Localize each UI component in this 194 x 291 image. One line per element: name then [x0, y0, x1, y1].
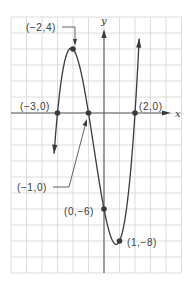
label-0-neg6: (0,−6)	[64, 206, 94, 217]
data-point	[132, 110, 138, 116]
y-axis-label: y	[100, 15, 107, 26]
label-1-neg8: (1,−8)	[127, 237, 157, 248]
label-2-0: (2,0)	[139, 101, 163, 112]
data-point	[117, 238, 123, 244]
point-labels: (−3,0) (−2,4) (−1,0) (0,−6) (1,−8) (2,0)	[17, 22, 163, 248]
data-point	[101, 206, 107, 212]
label-neg3-0: (−3,0)	[20, 101, 50, 112]
data-point	[70, 46, 76, 52]
axes: x y	[11, 15, 181, 273]
data-point	[55, 110, 61, 116]
cubic-function-graph: x y (−3,0) (−2,4) (−1,0) (0,−6) (1,−8) (…	[0, 0, 194, 291]
label-neg2-4: (−2,4)	[26, 22, 56, 33]
y-axis-arrow-icon	[102, 29, 107, 38]
leader-arrow-neg2-4-icon	[73, 39, 77, 46]
leader-arrow-neg1-0-icon	[83, 119, 88, 127]
x-axis-label: x	[175, 108, 181, 119]
curve-arrow-up-icon	[136, 39, 141, 48]
x-axis-arrow-icon	[162, 111, 171, 116]
label-neg1-0: (−1,0)	[17, 182, 47, 193]
grid	[11, 17, 182, 273]
data-point	[86, 110, 92, 116]
